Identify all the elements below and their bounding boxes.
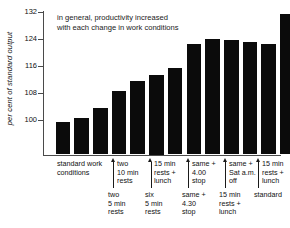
bar-6 (168, 68, 183, 155)
category-label-lower-0: two 5 min rests (108, 191, 144, 217)
productivity-bar-chart: per cent of standard output 132 124 116 … (0, 0, 290, 228)
bar-1 (74, 118, 89, 154)
category-label-upper-3: same + Sat a.m. off (229, 160, 265, 186)
category-line-3: rests (117, 177, 153, 186)
category-line-3: rests (145, 208, 181, 217)
category-line-3: stop (182, 208, 218, 217)
category-label-upper-1: 15 min rests + lunch (154, 160, 190, 186)
category-label-standard-work: standard work conditions (57, 160, 117, 177)
arrow-connector-4 (258, 162, 259, 188)
category-line-3: off (229, 177, 265, 186)
bar-5 (149, 75, 164, 154)
arrow-connector-1 (151, 162, 152, 188)
bar-2 (93, 108, 108, 154)
bar-0 (56, 122, 71, 155)
category-line-3: stop (192, 177, 228, 186)
category-line-3: rests (108, 208, 144, 217)
category-line-3: lunch (154, 177, 190, 186)
category-label-lower-2: same + 4.30 stop (182, 191, 218, 217)
category-label-lower-3: 15 min rests + lunch (219, 191, 255, 217)
bar-7 (187, 44, 202, 154)
arrow-connector-0 (113, 162, 114, 188)
bar-10 (243, 42, 258, 154)
category-label-lower-4: standard (254, 191, 290, 200)
bar-8 (205, 39, 220, 154)
category-line-1: standard (254, 191, 290, 200)
category-line-2: conditions (57, 169, 117, 178)
category-label-lower-1: six 5 min rests (145, 191, 181, 217)
category-line-3: lunch (262, 177, 290, 186)
category-label-upper-0: two 10 min rests (117, 160, 153, 186)
arrow-connector-3 (225, 162, 226, 188)
bar-4 (130, 81, 145, 154)
bar-12 (280, 14, 290, 155)
bar-11 (261, 44, 276, 154)
arrow-connector-2 (188, 162, 189, 188)
category-line-3: lunch (219, 208, 255, 217)
bar-9 (224, 40, 239, 154)
category-label-upper-4: 15 min rests + lunch (262, 160, 290, 186)
bar-3 (112, 91, 127, 155)
category-label-upper-2: same + 4.00 stop (192, 160, 228, 186)
